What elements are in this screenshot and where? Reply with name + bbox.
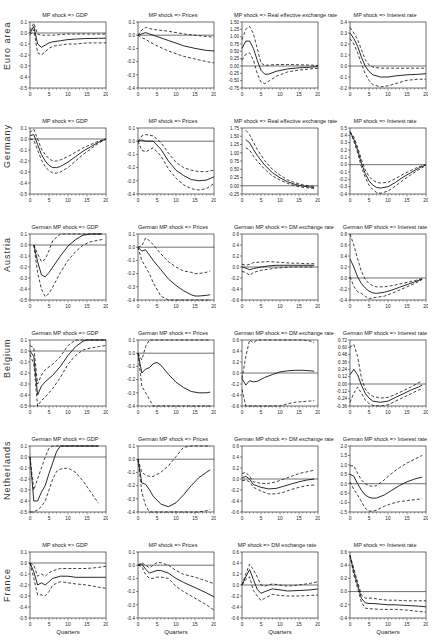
chart-panel: MP shock => Interest rate0.40.30.20.10.0… bbox=[328, 6, 428, 106]
svg-text:0.2: 0.2 bbox=[233, 466, 240, 471]
svg-text:0.0: 0.0 bbox=[341, 482, 348, 487]
confidence-band-line bbox=[34, 234, 102, 262]
svg-text:-0.1: -0.1 bbox=[127, 258, 135, 263]
svg-text:-0.5: -0.5 bbox=[19, 616, 27, 621]
svg-text:20: 20 bbox=[315, 516, 320, 521]
confidence-band-line bbox=[242, 564, 318, 586]
svg-text:-0.5: -0.5 bbox=[19, 404, 27, 409]
line-chart: 0.10.0-0.1-0.2-0.3-0.405101520 bbox=[116, 112, 216, 212]
svg-text:10: 10 bbox=[173, 410, 179, 415]
svg-text:10: 10 bbox=[277, 622, 283, 627]
svg-text:-0.75: -0.75 bbox=[229, 86, 240, 91]
svg-text:0.4: 0.4 bbox=[233, 243, 240, 248]
svg-text:-0.3: -0.3 bbox=[127, 285, 135, 290]
svg-text:20: 20 bbox=[423, 198, 428, 203]
line-chart: 0.80.60.40.20.0-0.2-0.405101520 bbox=[328, 218, 428, 318]
svg-text:10: 10 bbox=[173, 516, 179, 521]
svg-text:-0.50: -0.50 bbox=[229, 78, 240, 83]
svg-text:1.0: 1.0 bbox=[341, 463, 348, 468]
svg-text:20: 20 bbox=[103, 198, 108, 203]
svg-text:0: 0 bbox=[29, 410, 32, 415]
svg-text:20: 20 bbox=[315, 304, 320, 309]
svg-text:20: 20 bbox=[315, 410, 320, 415]
svg-text:1.50: 1.50 bbox=[230, 20, 239, 25]
confidence-band-line bbox=[30, 468, 98, 512]
svg-text:0: 0 bbox=[241, 410, 244, 415]
confidence-band-line bbox=[138, 141, 214, 190]
chart-panel: MP shock => Interest rate0.60.40.20.0-0.… bbox=[328, 536, 428, 636]
svg-text:-0.5: -0.5 bbox=[19, 510, 27, 515]
svg-text:-0.4: -0.4 bbox=[339, 298, 347, 303]
svg-text:0: 0 bbox=[29, 516, 32, 521]
svg-text:20: 20 bbox=[423, 410, 428, 415]
svg-text:0.1: 0.1 bbox=[341, 155, 348, 160]
svg-text:0: 0 bbox=[29, 622, 32, 627]
response-line bbox=[138, 353, 210, 393]
confidence-band-line bbox=[350, 132, 426, 183]
response-line bbox=[138, 247, 210, 296]
svg-text:15: 15 bbox=[84, 516, 90, 521]
svg-text:0.24: 0.24 bbox=[338, 367, 347, 372]
chart-panel: German MP shock => Interest rate2.01.51.… bbox=[328, 430, 428, 530]
confidence-band-line bbox=[350, 39, 426, 87]
svg-text:0.1: 0.1 bbox=[21, 338, 28, 343]
svg-text:-0.4: -0.4 bbox=[127, 86, 135, 91]
svg-text:5: 5 bbox=[48, 410, 51, 415]
response-line bbox=[350, 33, 426, 77]
chart-panel: German MP shock => GDP0.10.0-0.1-0.2-0.3… bbox=[8, 218, 108, 318]
svg-text:0.1: 0.1 bbox=[21, 126, 28, 131]
svg-text:5: 5 bbox=[260, 92, 263, 97]
confidence-band-line bbox=[350, 28, 426, 69]
svg-text:10: 10 bbox=[173, 622, 179, 627]
svg-text:15: 15 bbox=[84, 622, 90, 627]
svg-text:0: 0 bbox=[241, 304, 244, 309]
svg-text:5: 5 bbox=[368, 92, 371, 97]
svg-text:0.0: 0.0 bbox=[233, 371, 240, 376]
svg-text:-0.2: -0.2 bbox=[339, 287, 347, 292]
svg-text:-0.2: -0.2 bbox=[231, 594, 239, 599]
svg-text:0.3: 0.3 bbox=[341, 140, 348, 145]
svg-text:0.25: 0.25 bbox=[230, 175, 239, 180]
svg-text:5: 5 bbox=[260, 198, 263, 203]
svg-text:-0.3: -0.3 bbox=[127, 603, 135, 608]
svg-text:1.25: 1.25 bbox=[230, 142, 239, 147]
confidence-band-line bbox=[242, 470, 314, 483]
svg-text:15: 15 bbox=[296, 304, 302, 309]
confidence-band-line bbox=[350, 555, 426, 601]
svg-text:-0.1: -0.1 bbox=[339, 170, 347, 175]
svg-text:20: 20 bbox=[315, 92, 320, 97]
svg-text:10: 10 bbox=[65, 198, 71, 203]
svg-text:-0.2: -0.2 bbox=[19, 477, 27, 482]
response-line bbox=[138, 140, 214, 181]
confidence-band-line bbox=[138, 565, 214, 610]
chart-panel: German MP shock => GDP0.10.0-0.1-0.2-0.3… bbox=[8, 324, 108, 424]
response-line bbox=[350, 555, 426, 607]
svg-text:-0.3: -0.3 bbox=[127, 73, 135, 78]
svg-text:20: 20 bbox=[103, 622, 108, 627]
svg-text:-0.2: -0.2 bbox=[231, 488, 239, 493]
svg-text:0: 0 bbox=[349, 622, 352, 627]
svg-text:2.0: 2.0 bbox=[341, 444, 348, 449]
svg-text:10: 10 bbox=[173, 198, 179, 203]
confidence-band-line bbox=[242, 26, 318, 65]
svg-text:15: 15 bbox=[296, 410, 302, 415]
svg-text:0: 0 bbox=[29, 198, 32, 203]
svg-text:-0.12: -0.12 bbox=[337, 389, 348, 394]
svg-text:5: 5 bbox=[368, 622, 371, 627]
svg-text:-0.1: -0.1 bbox=[127, 46, 135, 51]
svg-text:-0.24: -0.24 bbox=[337, 396, 348, 401]
confidence-band-line bbox=[242, 262, 314, 266]
svg-text:-0.25: -0.25 bbox=[229, 71, 240, 76]
svg-text:0.0: 0.0 bbox=[129, 457, 136, 462]
svg-text:15: 15 bbox=[192, 198, 198, 203]
svg-text:15: 15 bbox=[404, 516, 410, 521]
svg-text:20: 20 bbox=[423, 92, 428, 97]
response-line bbox=[242, 570, 318, 594]
svg-text:0.0: 0.0 bbox=[233, 583, 240, 588]
svg-text:15: 15 bbox=[296, 92, 302, 97]
svg-text:1.25: 1.25 bbox=[230, 27, 239, 32]
chart-panel: MP shock => DM exchange rate0.60.40.20.0… bbox=[220, 536, 320, 636]
svg-text:5: 5 bbox=[48, 622, 51, 627]
svg-text:0: 0 bbox=[349, 516, 352, 521]
svg-text:20: 20 bbox=[103, 516, 108, 521]
